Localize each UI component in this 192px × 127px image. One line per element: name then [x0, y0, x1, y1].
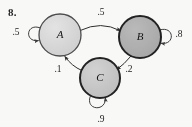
state-node-a-label: A [56, 28, 64, 40]
edge-c-to-a [65, 56, 82, 70]
self-loop-c-probability-label: .9 [97, 114, 104, 124]
self-loop-b-probability-label: .8 [175, 29, 182, 39]
edge-a-to-b [80, 26, 120, 31]
figure-container: 8. [0, 0, 192, 127]
self-loop-a-probability-label: .5 [12, 27, 19, 37]
edge-c-to-a-probability-label: .1 [54, 64, 61, 74]
edge-b-to-c-probability-label: .2 [125, 64, 132, 74]
state-node-b-label: B [137, 30, 144, 42]
state-diagram: A B C .5 .8 .9 .5 .2 .1 [0, 0, 192, 127]
state-node-c-label: C [96, 71, 104, 83]
edge-a-to-b-probability-label: .5 [97, 7, 104, 17]
